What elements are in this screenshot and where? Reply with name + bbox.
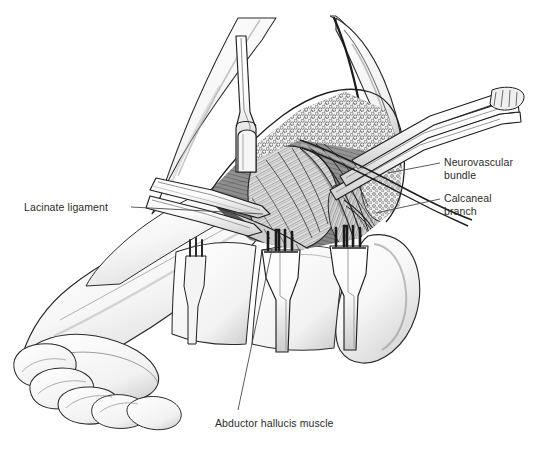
medical-illustration-figure: Neurovascular bundle Calcaneal branch La… (0, 0, 539, 453)
label-neurovascular-bundle: Neurovascular bundle (444, 156, 513, 182)
label-calcaneal-branch: Calcaneal branch (444, 192, 492, 218)
surgical-illustration (0, 0, 539, 453)
label-abductor-hallucis-muscle: Abductor hallucis muscle (215, 417, 334, 430)
label-lacinate-ligament: Lacinate ligament (24, 201, 108, 214)
vertical-blade-retractor (236, 36, 256, 172)
plantar-flap-left (172, 243, 256, 345)
